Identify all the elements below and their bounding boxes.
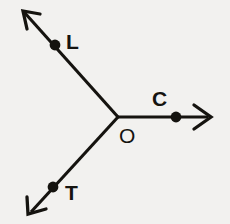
rays-diagram: L C T O bbox=[0, 0, 230, 224]
point-label-L: L bbox=[66, 30, 79, 53]
diagram-canvas: L C T O bbox=[0, 0, 230, 224]
point-dot-T bbox=[48, 182, 59, 193]
point-dot-C bbox=[171, 112, 182, 123]
point-label-C: C bbox=[152, 87, 167, 110]
vertex-label-O: O bbox=[119, 124, 135, 147]
point-label-T: T bbox=[65, 181, 78, 204]
ray-line-OL bbox=[24, 12, 118, 117]
point-dot-L bbox=[50, 40, 61, 51]
